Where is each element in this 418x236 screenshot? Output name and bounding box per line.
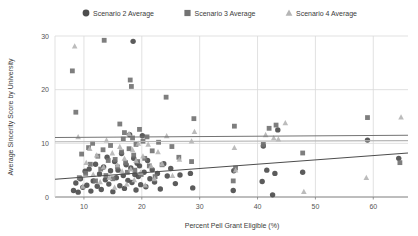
data-point-circle bbox=[93, 162, 98, 167]
data-point-circle bbox=[106, 181, 111, 186]
y-tick-label: 0 bbox=[45, 194, 49, 201]
data-point-circle bbox=[130, 39, 135, 44]
legend-marker-triangle bbox=[286, 10, 293, 16]
data-point-circle bbox=[84, 182, 89, 187]
x-tick-label: 60 bbox=[369, 203, 377, 210]
data-point-circle bbox=[117, 183, 122, 188]
data-point-square bbox=[128, 78, 133, 83]
data-point-square bbox=[131, 153, 136, 158]
data-point-square bbox=[101, 147, 106, 152]
data-point-square bbox=[106, 158, 111, 163]
data-point-circle bbox=[108, 168, 113, 173]
data-point-circle bbox=[75, 189, 80, 194]
data-point-square bbox=[164, 95, 169, 100]
data-point-circle bbox=[147, 176, 152, 181]
legend-label: Scenario 2 Average bbox=[93, 10, 154, 18]
data-point-square bbox=[365, 115, 370, 120]
data-point-triangle bbox=[170, 173, 176, 178]
data-point-circle bbox=[177, 172, 182, 177]
data-point-circle bbox=[270, 192, 275, 197]
data-point-circle bbox=[99, 187, 104, 192]
legend-marker-circle bbox=[83, 10, 90, 17]
data-point-triangle bbox=[232, 145, 238, 150]
data-point-square bbox=[108, 143, 113, 148]
data-point-triangle bbox=[192, 129, 198, 134]
data-point-square bbox=[119, 150, 124, 155]
data-point-triangle bbox=[97, 179, 103, 184]
data-point-triangle bbox=[112, 184, 118, 189]
x-tick-label: 30 bbox=[196, 203, 204, 210]
data-point-square bbox=[232, 124, 237, 129]
data-point-square bbox=[169, 144, 174, 149]
data-point-circle bbox=[158, 186, 163, 191]
data-point-square bbox=[150, 148, 155, 153]
data-point-square bbox=[137, 127, 142, 132]
data-point-triangle bbox=[145, 142, 151, 147]
x-tick-label: 10 bbox=[80, 203, 88, 210]
legend-marker-square bbox=[184, 10, 190, 16]
data-point-square bbox=[117, 122, 122, 127]
scatter-chart: 0102030102030405060Percent Pell Grant El… bbox=[0, 0, 418, 236]
data-point-square bbox=[191, 116, 196, 121]
data-point-square bbox=[122, 130, 127, 135]
data-point-square bbox=[113, 157, 118, 162]
data-point-circle bbox=[264, 167, 269, 172]
data-point-circle bbox=[122, 186, 127, 191]
data-point-triangle bbox=[164, 133, 170, 138]
data-point-circle bbox=[300, 170, 305, 175]
data-point-triangle bbox=[117, 144, 123, 149]
data-point-circle bbox=[140, 133, 145, 138]
data-point-circle bbox=[165, 173, 170, 178]
data-point-square bbox=[73, 110, 78, 115]
data-point-triangle bbox=[72, 43, 78, 48]
trendline-square bbox=[55, 135, 408, 137]
data-point-triangle bbox=[398, 114, 404, 119]
data-point-circle bbox=[231, 188, 236, 193]
x-tick-label: 50 bbox=[312, 203, 320, 210]
data-point-square bbox=[83, 171, 88, 176]
legend-label: Scenario 3 Average bbox=[195, 10, 256, 18]
y-axis-title: Average Sincerity Score by University bbox=[7, 58, 15, 175]
data-point-square bbox=[123, 160, 128, 165]
data-point-circle bbox=[173, 181, 178, 186]
data-point-circle bbox=[396, 156, 401, 161]
x-tick-label: 40 bbox=[254, 203, 262, 210]
data-point-triangle bbox=[109, 150, 115, 155]
data-point-circle bbox=[190, 185, 195, 190]
data-point-square bbox=[132, 168, 137, 173]
data-point-triangle bbox=[283, 120, 289, 125]
y-tick-label: 20 bbox=[41, 86, 49, 93]
y-tick-label: 30 bbox=[41, 33, 49, 40]
data-point-circle bbox=[86, 166, 91, 171]
data-point-circle bbox=[188, 171, 193, 176]
data-point-triangle bbox=[301, 189, 307, 194]
data-point-circle bbox=[71, 188, 76, 193]
data-point-square bbox=[274, 123, 279, 128]
data-point-triangle bbox=[155, 149, 161, 154]
data-point-square bbox=[261, 142, 266, 147]
data-point-circle bbox=[275, 127, 280, 132]
data-point-circle bbox=[88, 188, 93, 193]
data-point-circle bbox=[73, 180, 78, 185]
x-tick-label: 20 bbox=[138, 203, 146, 210]
legend-label: Scenario 4 Average bbox=[296, 10, 357, 18]
data-point-square bbox=[300, 151, 305, 156]
data-point-square bbox=[129, 84, 134, 89]
x-axis-title: Percent Pell Grant Eligible (%) bbox=[185, 222, 280, 230]
data-point-circle bbox=[272, 171, 277, 176]
data-point-triangle bbox=[75, 134, 81, 139]
data-point-triangle bbox=[122, 155, 128, 160]
data-point-square bbox=[70, 68, 75, 73]
data-point-circle bbox=[138, 182, 143, 187]
data-point-square bbox=[231, 179, 236, 184]
data-point-square bbox=[130, 136, 135, 141]
data-point-circle bbox=[259, 179, 264, 184]
chart-canvas: 0102030102030405060Percent Pell Grant El… bbox=[0, 0, 418, 236]
data-point-square bbox=[397, 160, 402, 165]
data-point-circle bbox=[110, 189, 115, 194]
data-point-square bbox=[79, 152, 84, 157]
data-point-square bbox=[102, 38, 107, 43]
data-point-circle bbox=[137, 163, 142, 168]
data-point-circle bbox=[365, 137, 370, 142]
data-point-square bbox=[267, 126, 272, 131]
